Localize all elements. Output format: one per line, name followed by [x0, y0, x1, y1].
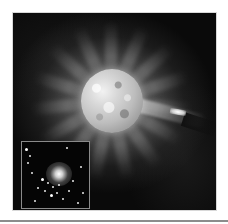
star-core	[81, 69, 143, 133]
star-surface-texture	[81, 69, 143, 133]
inset-bright-object	[46, 162, 72, 186]
horizontal-divider	[0, 220, 228, 222]
main-illustration	[13, 13, 216, 210]
inset-photo	[21, 141, 90, 209]
